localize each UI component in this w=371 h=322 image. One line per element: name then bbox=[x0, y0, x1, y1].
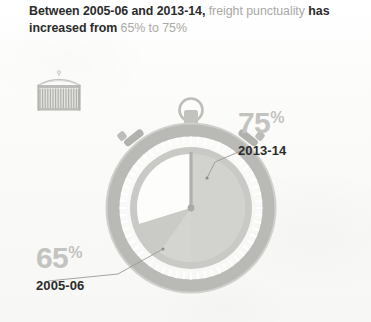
headline-segment-punctuality: punctuality bbox=[246, 4, 305, 18]
callout-2013-value: 75 bbox=[238, 106, 270, 139]
shipping-container-icon bbox=[33, 70, 85, 114]
percent-symbol: % bbox=[68, 244, 82, 261]
callout-2005-value: 65 bbox=[36, 241, 68, 274]
headline-segment-values: 65% to 75% bbox=[121, 21, 187, 35]
headline-segment-freight: freight bbox=[209, 4, 243, 18]
callout-2005-period: 2005-06 bbox=[36, 279, 84, 292]
callout-2013-percent: 75% bbox=[238, 108, 286, 138]
callout-2013-period: 2013-14 bbox=[238, 144, 286, 157]
stopwatch-hand bbox=[189, 152, 192, 210]
headline-segment-period-range: Between 2005-06 and 2013-14, bbox=[29, 4, 205, 18]
percent-symbol: % bbox=[270, 109, 284, 126]
headline: Between 2005-06 and 2013-14, freight pun… bbox=[29, 3, 349, 36]
callout-2013-14: 75% 2013-14 bbox=[238, 108, 286, 157]
infographic-root: Between 2005-06 and 2013-14, freight pun… bbox=[0, 0, 371, 322]
callout-2005-06: 65% 2005-06 bbox=[36, 243, 84, 292]
callout-2005-percent: 65% bbox=[36, 243, 84, 273]
stopwatch-hand-pivot bbox=[188, 205, 195, 212]
